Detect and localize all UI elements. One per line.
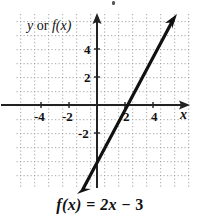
y-axis-label: y or f(x) xyxy=(27,19,71,33)
y-axis-label-y: y xyxy=(27,18,33,33)
y-axis-label-fx: f(x) xyxy=(52,18,71,33)
x-tick-label-neg2: -2 xyxy=(62,110,73,123)
caption-equals-sign: = xyxy=(86,196,96,213)
x-tick-label-neg4: -4 xyxy=(34,110,45,123)
y-tick-label-2: 2 xyxy=(84,71,91,84)
caption-function-notation: f(x) xyxy=(56,196,82,213)
page-artifact-speck xyxy=(112,1,115,5)
x-tick-label-2: 2 xyxy=(123,110,130,123)
function-line xyxy=(15,12,191,188)
caption-constant-term: 3 xyxy=(135,196,143,213)
x-tick-label-4: 4 xyxy=(151,110,158,123)
y-tick-label-4: 4 xyxy=(84,43,91,56)
y-axis-label-or: or xyxy=(37,18,49,33)
graph-plot-area: -4 -2 2 4 4 2 -2 x xyxy=(15,12,191,188)
linear-function-figure: -4 -2 2 4 4 2 -2 x y or f(x) f(x) = 2x −… xyxy=(0,0,200,223)
equation-caption: f(x) = 2x − 3 xyxy=(0,196,200,214)
caption-linear-term: 2x xyxy=(100,196,117,213)
x-axis-label: x xyxy=(180,108,187,122)
y-tick-label-neg2: -2 xyxy=(78,127,89,140)
caption-minus-sign: − xyxy=(121,196,131,213)
